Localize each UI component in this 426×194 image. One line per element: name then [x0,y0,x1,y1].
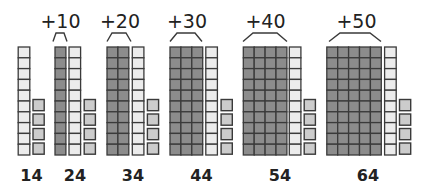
unit-cube [304,114,315,125]
ten-rod-cell [170,112,181,123]
ten-rod-cell [349,112,360,123]
ten-rod-cell [276,90,287,101]
ten-rod-cell [243,101,254,112]
ten-rod-cell [349,79,360,90]
ten-rod-cell [118,58,129,69]
ten-rod-cell [181,90,192,101]
bracket-icon [329,33,381,42]
base-ten-rod [289,47,301,155]
ten-rod-cell [243,90,254,101]
ten-rod-cell [170,47,181,58]
group-24: +1024 [40,10,95,185]
added-amount-label: +50 [336,10,376,32]
base-ten-rod [206,47,218,155]
ten-rod-cell [18,69,30,80]
ten-rod-cell [243,112,254,123]
ten-rod-cell [192,79,203,90]
ten-rod-cell [55,101,66,112]
ten-rod-cell [370,112,381,123]
ten-rod-cell [18,58,30,69]
unit-cubes [147,100,158,155]
ten-rod-cell [181,79,192,90]
ten-rod-cell [69,112,81,123]
ten-rod-cell [69,47,81,58]
added-tens-block [55,47,66,155]
unit-cube [84,129,95,140]
base-ten-rod [385,47,397,155]
ten-rod-cell [276,144,287,155]
ten-rod-cell [360,123,371,134]
ten-rod-cell [170,144,181,155]
ten-rod-cell [360,144,371,155]
ten-rod-cell [265,123,276,134]
ten-rod-cell [327,58,338,69]
ten-rod-cell [206,58,218,69]
ten-rod-cell [254,112,265,123]
ten-rod-cell [243,69,254,80]
total-label: 54 [269,166,291,185]
ten-rod-cell [338,112,349,123]
ten-rod-cell [181,101,192,112]
ten-rod-cell [69,133,81,144]
ten-rod-cell [18,90,30,101]
ten-rod-cell [254,123,265,134]
ten-rod-cell [107,90,118,101]
ten-rod-cell [192,47,203,58]
ten-rod-cell [243,123,254,134]
ten-rod-cell [107,133,118,144]
ten-rod-cell [192,112,203,123]
ten-rod-cell [338,133,349,144]
ten-rod-cell [69,101,81,112]
ten-rod-cell [385,90,397,101]
ten-rod-cell [243,79,254,90]
unit-cube [33,143,44,154]
ten-rod-cell [107,47,118,58]
ten-rod-cell [107,101,118,112]
ten-rod-cell [289,58,301,69]
ten-rod-cell [349,90,360,101]
ten-rod-cell [289,112,301,123]
ten-rod-cell [132,133,144,144]
ten-rod-cell [118,47,129,58]
ten-rod-cell [118,69,129,80]
ten-rod-cell [265,133,276,144]
ten-rod-cell [107,144,118,155]
added-tens-block [327,47,382,155]
ten-rod-cell [55,90,66,101]
ten-rod-cell [360,101,371,112]
ten-rod-cell [265,58,276,69]
group-64: +5064 [327,10,411,185]
ten-rod-cell [327,90,338,101]
group-34: +2034 [100,10,159,185]
ten-rod-cell [289,133,301,144]
ten-rod-cell [18,101,30,112]
ten-rod-cell [55,58,66,69]
ten-rod-cell [206,112,218,123]
ten-rod-cell [385,79,397,90]
ten-rod-cell [254,69,265,80]
ten-rod-cell [18,133,30,144]
unit-cube [84,114,95,125]
unit-cubes [221,100,232,155]
ten-rod-cell [206,69,218,80]
unit-cube [221,100,232,111]
ten-rod-cell [370,123,381,134]
unit-cube [400,129,411,140]
added-tens-block [170,47,203,155]
unit-cubes [400,100,411,155]
ten-rod-cell [338,101,349,112]
place-value-diagram: 14+1024+2034+3044+4054+5064 [0,0,426,194]
ten-rod-cell [276,133,287,144]
ten-rod-cell [55,144,66,155]
base-ten-rod [69,47,81,155]
ten-rod-cell [69,123,81,134]
ten-rod-cell [276,69,287,80]
ten-rod-cell [370,58,381,69]
ten-rod-cell [55,133,66,144]
group-44: +3044 [167,10,232,185]
ten-rod-cell [349,123,360,134]
unit-cube [304,143,315,154]
ten-rod-cell [385,58,397,69]
ten-rod-cell [265,101,276,112]
ten-rod-cell [327,101,338,112]
